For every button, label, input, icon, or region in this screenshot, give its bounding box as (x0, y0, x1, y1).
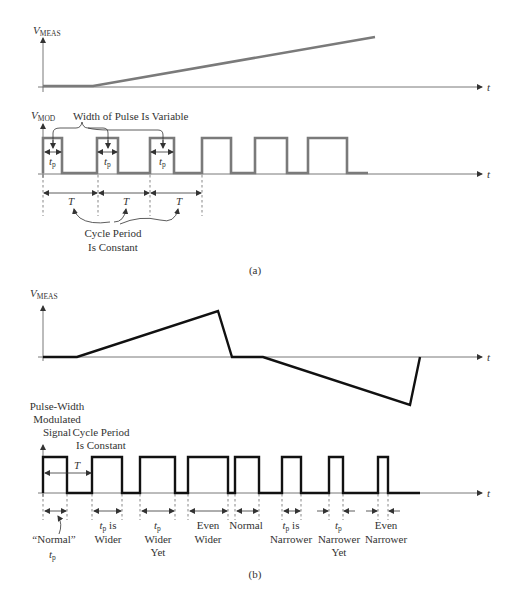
tp-label: tp (159, 155, 166, 169)
annotation-wider-yet-line2: Wider (144, 533, 171, 545)
cycle-note-line2: Is Constant (88, 241, 138, 253)
part-b-pwm-plot: Pulse-Width Modulated Signal Cycle Perio… (30, 400, 491, 562)
edge-markers (43, 494, 388, 520)
part-a: VMEAS t VMOD t Width of Pulse Is Variabl… (31, 24, 491, 277)
pwm-pulse-train (43, 138, 368, 173)
y-axis-label-vmeas: VMEAS (30, 287, 58, 301)
caption-b: (b) (249, 568, 262, 581)
annotation-even-wider-line1: Even (197, 519, 220, 531)
x-axis-label-t: t (487, 351, 491, 363)
period-label-T: T (123, 195, 130, 207)
annotation-even-wider-line2: Wider (194, 533, 221, 545)
pwm-diagram: VMEAS t VMOD t Width of Pulse Is Variabl… (0, 0, 511, 609)
annotation-narrower-yet-line3: Yet (332, 546, 347, 558)
annotation-narrower-line1: tp is (283, 519, 300, 533)
x-axis-label-t: t (487, 81, 491, 93)
y-axis-label-vmeas: VMEAS (33, 24, 61, 38)
curved-arrow-icon (114, 209, 126, 222)
signal-label-line1: Pulse-Width (30, 400, 85, 412)
period-label-T: T (68, 195, 75, 207)
period-label-T: T (74, 459, 81, 471)
tp-label: tp (49, 155, 56, 169)
annotation-narrower-line2: Narrower (270, 533, 312, 545)
cycle-note-line1: Cycle Period (72, 426, 130, 438)
signal-label-line2: Modulated (33, 413, 81, 425)
period-label-T: T (176, 195, 183, 207)
vmeas-waveform (43, 311, 420, 405)
annotation-wider-yet-line3: Yet (151, 546, 166, 558)
tp-label: tp (104, 155, 111, 169)
part-a-mod-plot: VMOD t Width of Pulse Is Variable tp tp … (31, 109, 491, 253)
part-a-meas-plot: VMEAS t (33, 24, 491, 93)
cycle-note-line2: Is Constant (76, 439, 126, 451)
part-b: VMEAS t Pulse-Width Modulated Signal Cyc… (30, 287, 491, 581)
annotation-wider-line1: tp is (100, 519, 117, 533)
annotation-wider-yet-tp: tp (154, 519, 161, 533)
caption-a: (a) (249, 264, 262, 277)
annotation-normal-1-tp: tp (49, 548, 56, 562)
part-b-meas-plot: VMEAS t (30, 287, 491, 405)
width-variable-note: Width of Pulse Is Variable (73, 110, 189, 122)
curved-arrow-icon (120, 209, 178, 224)
x-axis-label-t: t (487, 168, 491, 180)
annotation-even-narrower-line2: Narrower (365, 533, 407, 545)
cycle-note-line1: Cycle Period (84, 227, 142, 239)
annotation-narrower-yet-tp: tp (335, 519, 342, 533)
x-axis-label-t: t (487, 487, 491, 499)
annotation-narrower-yet-line2: Narrower (318, 533, 360, 545)
annotation-even-narrower-line1: Even (375, 519, 398, 531)
curved-arrow-icon (74, 209, 110, 223)
annotation-normal-2: Normal (229, 519, 263, 531)
curved-arrow-icon (58, 516, 61, 534)
signal-label-line3: Signal (43, 426, 71, 438)
y-axis-label-vmod: VMOD (31, 109, 56, 123)
vmeas-ramp-waveform (43, 37, 375, 86)
pwm-pulse-train (43, 457, 420, 493)
annotation-wider-line2: Wider (94, 533, 121, 545)
annotation-normal-1: “Normal” (32, 533, 75, 545)
